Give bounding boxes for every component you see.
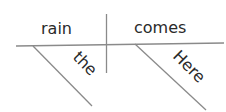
baseline <box>16 43 224 46</box>
subject-word: rain <box>41 19 72 38</box>
sentence-diagram: rain comes the Here <box>0 0 226 112</box>
modifier-word-the: the <box>69 47 101 79</box>
predicate-word: comes <box>134 18 186 37</box>
